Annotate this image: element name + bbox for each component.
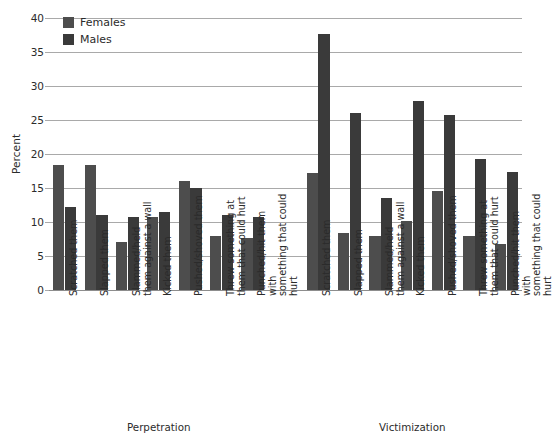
legend-swatch-icon [63, 34, 74, 45]
bar [463, 236, 474, 290]
y-axis-tick-label: 10 [20, 217, 44, 228]
y-axis-tick-label: 5 [20, 251, 44, 262]
x-axis-label: Threw something at them that could hurt [226, 188, 247, 296]
bar [307, 173, 318, 290]
legend-label: Females [80, 17, 126, 28]
bar [432, 191, 443, 290]
y-axis-tick-label: 25 [20, 115, 44, 126]
x-axis-label: Slapped them [354, 188, 365, 296]
x-axis-label: Slammed/held them against a wall [385, 188, 406, 296]
legend-item: Females [63, 14, 126, 31]
x-axis-label: Pushed/shoved them [194, 188, 205, 296]
y-axis-tick-label: 15 [20, 183, 44, 194]
x-axis-label: Slapped them [100, 188, 111, 296]
group-label: Perpetration [49, 421, 269, 433]
bar [85, 165, 96, 290]
y-axis-tick-label: 0 [20, 285, 44, 296]
x-axis-label: Scratched them [322, 188, 333, 296]
x-axis-label: Threw something at them that could hurt [479, 188, 500, 296]
y-axis-tick-label: 35 [20, 47, 44, 58]
group-label: Victimization [303, 421, 523, 433]
x-axis-label: Kicked them [416, 188, 427, 296]
legend-label: Males [80, 34, 112, 45]
chart-legend: FemalesMales [63, 14, 126, 48]
bar [369, 236, 380, 290]
x-axis-label: Slammed/held them against a wall [132, 188, 153, 296]
bar [116, 242, 127, 290]
x-axis-label: Kicked them [163, 188, 174, 296]
y-axis-tick-label: 20 [20, 149, 44, 160]
x-axis-label: Pushed/shoved them [448, 188, 459, 296]
bar [210, 236, 221, 290]
y-axis-tick-label: 30 [20, 81, 44, 92]
legend-swatch-icon [63, 17, 74, 28]
legend-item: Males [63, 31, 126, 48]
bar [338, 233, 349, 290]
y-axis-tick-label: 40 [20, 13, 44, 24]
bar [53, 165, 64, 290]
bar [179, 181, 190, 290]
x-axis-label: Scratched them [69, 188, 80, 296]
x-axis-label: Punched/hit them with something that cou… [511, 188, 553, 296]
x-axis-label: Punched/hit them with something that cou… [257, 188, 299, 296]
